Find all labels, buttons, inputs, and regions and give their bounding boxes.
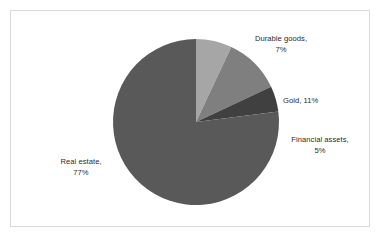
data-label-financial-assets: Financial assets, 5% (279, 135, 361, 156)
data-label-real-estate-text: Real estate, (60, 157, 101, 166)
pie-plot-area: Durable goods, 7% Gold, 11% Financial as… (11, 11, 369, 226)
data-label-real-estate: Real estate, 77% (42, 157, 120, 178)
data-label-gold-text: Gold, 11% (283, 96, 318, 105)
data-label-durable-goods: Durable goods, 7% (244, 34, 318, 55)
data-label-gold: Gold, 11% (283, 96, 318, 107)
data-label-financial-assets-text: Financial assets, (291, 135, 348, 144)
data-label-real-estate-value: 77% (42, 168, 120, 179)
data-label-financial-assets-value: 5% (279, 146, 361, 157)
chart-frame: Durable goods, 7% Gold, 11% Financial as… (10, 10, 370, 227)
data-label-durable-goods-value: 7% (244, 45, 318, 56)
pie-slice-group (113, 39, 279, 205)
data-label-durable-goods-text: Durable goods, (255, 34, 307, 43)
